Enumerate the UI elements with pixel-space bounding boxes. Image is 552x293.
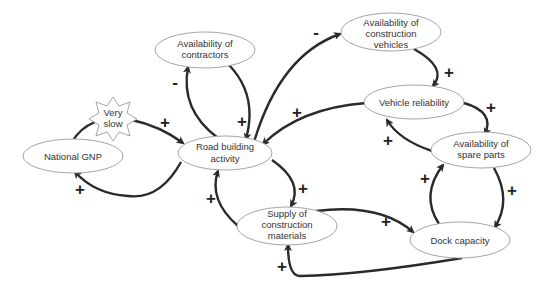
node-road-building-activity: Road building activity [178,136,272,170]
edge-dock-to-spare [430,165,443,224]
edge-spare-to-dock [494,168,503,227]
sign-plus: + [507,181,517,200]
edge-vehicles-to-reliability [414,49,438,86]
sign-plus: + [206,189,216,208]
node-label: construction [365,28,416,39]
sign-plus: + [381,212,391,231]
edge-supply-to-road [216,171,239,226]
edge-reliability-to-spare [464,103,487,134]
node-label: contractors [182,49,229,60]
node-availability-of-spare-parts: Availability of spare parts [431,132,531,168]
node-label: spare parts [457,149,505,160]
sign-plus: + [420,169,430,188]
edge-road-to-supply [272,160,295,206]
node-label: vehicles [374,39,409,50]
sign-plus: + [292,103,302,122]
node-very-slow: Very slow [89,97,137,141]
edge-road-to-contractors [187,67,218,138]
node-label: slow [103,118,122,129]
node-label: activity [210,153,239,164]
sign-plus: + [237,112,247,131]
node-label: Very [103,107,122,118]
node-vehicle-reliability: Vehicle reliability [364,85,464,119]
node-label: Availability of [177,38,233,49]
node-availability-of-construction-vehicles: Availability of construction vehicles [341,13,441,51]
sign-minus: - [313,23,319,42]
node-availability-of-contractors: Availability of contractors [155,32,255,68]
edge-road-to-vehicles [254,34,340,142]
node-label: Vehicle reliability [379,97,449,108]
sign-minus: - [172,73,178,92]
node-label: National GNP [44,151,102,162]
node-supply-of-construction-materials: Supply of construction materials [237,207,337,245]
node-dock-capacity: Dock capacity [410,222,510,258]
sign-plus: + [160,113,170,132]
sign-plus: + [383,131,393,150]
edge-spare-to-reliability [387,120,432,151]
node-label: materials [268,230,307,241]
node-label: Supply of [267,208,307,219]
sign-plus: + [277,257,287,276]
edge-reliability-to-road [263,103,366,144]
sign-plus: + [298,179,308,198]
node-label: construction [261,219,312,230]
node-label: Dock capacity [430,235,489,246]
node-label: Availability of [453,138,509,149]
edge-veryslow-to-road [132,120,183,143]
sign-plus: + [444,63,454,82]
node-label: Road building [196,141,254,152]
sign-plus: + [486,98,496,117]
node-label: Availability of [363,17,419,28]
causal-loop-diagram: National GNP Very slow Availability of c… [0,0,552,293]
node-national-gnp: National GNP [23,139,123,173]
sign-plus: + [75,180,85,199]
